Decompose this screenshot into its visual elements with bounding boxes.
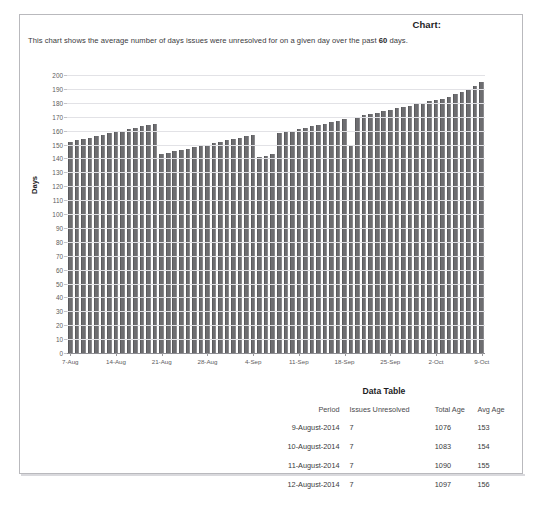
x-tick-label: 4-Sep <box>245 358 262 365</box>
y-tick-label: 80 <box>56 238 63 245</box>
x-tick-mark <box>299 353 300 356</box>
y-tick-mark <box>64 75 67 76</box>
x-tick-label: 11-Sep <box>289 358 309 365</box>
cell-period: 9-August-2014 <box>252 423 350 442</box>
gridline <box>67 325 485 326</box>
y-tick-mark <box>64 242 67 243</box>
table-row: 9-August-201471076153 <box>252 423 512 442</box>
y-tick-mark <box>64 311 67 312</box>
y-tick-label: 60 <box>56 266 63 273</box>
cell-issues-unresolved: 7 <box>350 423 435 442</box>
chart-bar <box>368 114 373 353</box>
chart-bar <box>81 139 86 353</box>
table-row: 12-August-201471097156 <box>252 480 512 499</box>
cell-total-age: 1083 <box>435 442 478 461</box>
y-tick-mark <box>64 284 67 285</box>
y-tick-mark <box>64 117 67 118</box>
chart-bar <box>231 139 236 353</box>
chart-bar <box>329 122 334 353</box>
y-tick-label: 130 <box>52 169 63 176</box>
chart-bar <box>218 142 223 353</box>
gridline <box>67 214 485 215</box>
chart-bar <box>140 126 145 353</box>
gridline <box>67 242 485 243</box>
y-tick-mark <box>64 89 67 90</box>
x-tick-mark <box>390 353 391 356</box>
chart-bar <box>205 145 210 354</box>
y-tick-label: 190 <box>52 85 63 92</box>
cell-period: 10-August-2014 <box>252 442 350 461</box>
chart-bar <box>192 147 197 353</box>
y-tick-mark <box>64 228 67 229</box>
y-axis-label: Days <box>30 155 39 215</box>
y-tick-label: 90 <box>56 224 63 231</box>
chart-bar <box>251 135 256 353</box>
cell-issues-unresolved: 7 <box>350 442 435 461</box>
y-tick-mark <box>64 297 67 298</box>
gridline <box>67 256 485 257</box>
gridline <box>67 200 485 201</box>
chart-bar <box>355 117 360 353</box>
gridline <box>67 89 485 90</box>
y-tick-label: 160 <box>52 127 63 134</box>
chart-bar <box>303 128 308 353</box>
gridline <box>67 186 485 187</box>
cell-total-age: 1076 <box>435 423 478 442</box>
chart-bar <box>199 146 204 353</box>
x-tick-label: 28-Aug <box>197 358 217 365</box>
chart-bar <box>453 94 458 353</box>
gridline <box>67 103 485 104</box>
cell-avg-age: 153 <box>477 423 512 442</box>
gridline <box>67 158 485 159</box>
chart-bar <box>277 133 282 353</box>
y-tick-label: 200 <box>52 72 63 79</box>
cell-issues-unresolved: 7 <box>350 461 435 480</box>
x-tick-label: 9-Oct <box>474 358 489 365</box>
chart-bar <box>440 99 445 353</box>
x-tick-label: 21-Aug <box>152 358 172 365</box>
x-tick-mark <box>436 353 437 356</box>
chart-panel: Chart: This chart shows the average numb… <box>19 14 523 474</box>
chart-bar <box>473 86 478 353</box>
chart-bar <box>408 106 413 353</box>
chart-bar <box>179 150 184 353</box>
y-tick-mark <box>64 256 67 257</box>
y-tick-label: 20 <box>56 322 63 329</box>
x-tick-mark <box>70 353 71 356</box>
y-tick-label: 100 <box>52 211 63 218</box>
y-tick-label: 180 <box>52 99 63 106</box>
gridline <box>67 339 485 340</box>
table-row: 11-August-201471090155 <box>252 461 512 480</box>
column-header-avg-age: Avg Age <box>477 405 512 423</box>
column-header-total-age: Total Age <box>435 405 478 423</box>
chart-bar <box>342 119 347 353</box>
chart-bar <box>244 136 249 353</box>
chart-bar <box>362 115 367 353</box>
gridline <box>67 270 485 271</box>
cell-total-age: 1097 <box>435 480 478 499</box>
cell-period: 12-August-2014 <box>252 480 350 499</box>
description-text-before: This chart shows the average number of d… <box>28 36 379 45</box>
y-tick-label: 50 <box>56 280 63 287</box>
gridline <box>67 145 485 146</box>
chart-bar <box>172 151 177 353</box>
y-tick-mark <box>64 200 67 201</box>
gridline <box>67 172 485 173</box>
gridline <box>67 131 485 132</box>
chart-bar <box>133 128 138 353</box>
x-tick-mark <box>253 353 254 356</box>
chart-bar <box>381 111 386 353</box>
chart-description: This chart shows the average number of d… <box>28 36 514 45</box>
cell-avg-age: 155 <box>477 461 512 480</box>
x-tick-label: 7-Aug <box>62 358 79 365</box>
gridline <box>67 117 485 118</box>
chart-bar <box>375 113 380 353</box>
chart-bar <box>94 136 99 353</box>
y-tick-mark <box>64 353 67 354</box>
gridline <box>67 297 485 298</box>
chart-bar <box>166 153 171 353</box>
chart-bar <box>388 110 393 353</box>
cell-avg-age: 154 <box>477 442 512 461</box>
y-tick-mark <box>64 145 67 146</box>
table-body: 9-August-20147107615310-August-201471083… <box>252 423 512 499</box>
